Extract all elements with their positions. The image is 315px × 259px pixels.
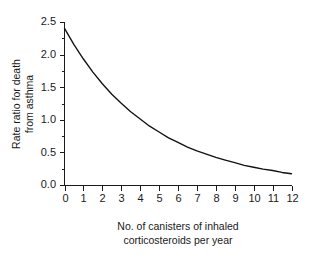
rate-ratio-curve: [65, 28, 292, 173]
x-tick-label: 3: [118, 192, 124, 204]
y-tick-label: 2.0: [41, 48, 56, 60]
x-tick-label: 12: [286, 192, 298, 204]
x-tick-label: 0: [62, 192, 68, 204]
y-tick-label: 1.5: [41, 81, 56, 93]
x-tick-label: 2: [99, 192, 105, 204]
x-axis-tick-labels: 0123456789101112: [62, 192, 298, 204]
y-axis-tick-labels: 2.5 2.0 1.5 1.0 0.5 0.0: [41, 15, 56, 190]
x-tick-label: 10: [248, 192, 260, 204]
y-tick-label: 0.0: [41, 178, 56, 190]
x-axis-ticks: [66, 186, 293, 191]
x-tick-label: 11: [268, 192, 279, 204]
x-axis-title-line1: No. of canisters of inhaled: [117, 220, 239, 232]
x-tick-label: 9: [232, 192, 238, 204]
y-tick-label: 2.5: [41, 15, 56, 27]
y-tick-label: 1.0: [41, 113, 56, 125]
y-tick-label: 0.5: [41, 146, 56, 158]
x-tick-label: 6: [175, 192, 181, 204]
x-tick-label: 5: [156, 192, 162, 204]
x-axis-title-line2: corticosteroids per year: [123, 234, 233, 246]
y-axis-title-line1: Rate ratio for death: [10, 59, 22, 149]
x-axis-title: No. of canisters of inhaled corticostero…: [117, 220, 239, 246]
y-axis-title: Rate ratio for death from asthma: [10, 59, 35, 149]
chart-container: 2.5 2.0 1.5 1.0 0.5 0.0 0123456789101112…: [0, 0, 315, 259]
x-tick-label: 8: [213, 192, 219, 204]
x-tick-label: 1: [80, 192, 86, 204]
x-tick-label: 4: [137, 192, 143, 204]
x-tick-label: 7: [194, 192, 200, 204]
y-axis-title-line2: from asthma: [23, 75, 35, 134]
asthma-rate-ratio-chart: 2.5 2.0 1.5 1.0 0.5 0.0 0123456789101112…: [0, 0, 315, 259]
